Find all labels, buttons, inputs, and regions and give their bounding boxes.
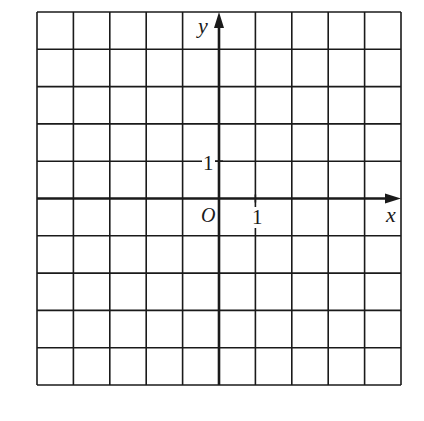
y-tick-label-1: 1 — [202, 153, 215, 174]
axes — [37, 12, 401, 385]
y-axis-label: y — [198, 15, 208, 37]
x-tick-label-1: 1 — [251, 207, 264, 228]
coordinate-grid-diagram: y x O 1 1 — [0, 0, 424, 421]
x-axis-label: x — [386, 204, 396, 226]
y-axis-arrow-icon — [214, 12, 224, 28]
origin-label: O — [201, 205, 215, 225]
